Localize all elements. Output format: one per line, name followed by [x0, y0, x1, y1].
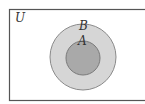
- venn-diagram: U B A: [0, 0, 145, 104]
- set-a-label: A: [77, 34, 87, 48]
- universal-set-label: U: [15, 11, 26, 25]
- set-b-label: B: [78, 19, 88, 33]
